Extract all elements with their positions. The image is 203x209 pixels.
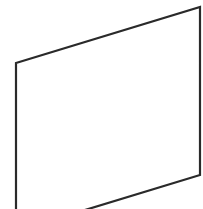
parallelogram-shape bbox=[16, 7, 200, 209]
diagram-canvas bbox=[0, 0, 203, 209]
